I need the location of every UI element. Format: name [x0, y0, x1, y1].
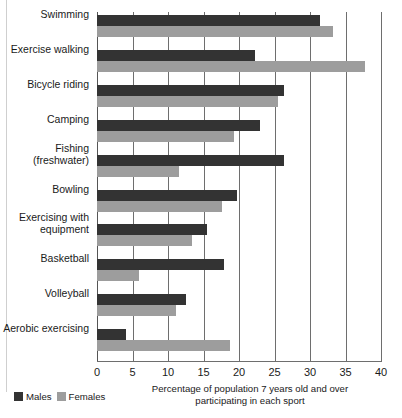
x-tick-label-20: 20 — [224, 366, 254, 378]
bar-group — [97, 155, 381, 177]
legend-label-females: Females — [69, 391, 106, 402]
bar-males — [97, 329, 126, 340]
x-tick-label-5: 5 — [118, 366, 148, 378]
legend-swatch-females-icon — [57, 392, 66, 401]
category-label: Exercising with equipment — [19, 211, 89, 235]
bar-females — [97, 305, 176, 316]
plot-area — [97, 12, 381, 361]
legend-item-females: Females — [57, 391, 106, 402]
bar-females — [97, 131, 234, 142]
bar-females — [97, 166, 179, 177]
bar-group — [97, 120, 381, 142]
category-label: Exercise walking — [11, 43, 89, 55]
bar-males — [97, 50, 255, 61]
bar-females — [97, 340, 230, 351]
category-label: Aerobic exercising — [3, 322, 89, 334]
category-label: Swimming — [41, 8, 89, 20]
bar-group — [97, 329, 381, 351]
x-tick-label-35: 35 — [331, 366, 361, 378]
bar-males — [97, 15, 320, 26]
x-axis-baseline — [97, 361, 382, 362]
bar-females — [97, 270, 139, 281]
bar-group — [97, 50, 381, 72]
category-axis: SwimmingExercise walkingBicycle ridingCa… — [0, 0, 97, 349]
bar-males — [97, 85, 284, 96]
bar-group — [97, 190, 381, 212]
bar-females — [97, 235, 192, 246]
bar-group — [97, 259, 381, 281]
x-axis-label: Percentage of population 7 years old and… — [110, 383, 390, 406]
legend-label-males: Males — [26, 391, 52, 402]
category-label: Bowling — [52, 183, 89, 195]
x-tick-label-30: 30 — [295, 366, 325, 378]
bar-group — [97, 224, 381, 246]
x-tick-label-25: 25 — [260, 366, 290, 378]
bar-males — [97, 294, 186, 305]
bar-females — [97, 96, 278, 107]
x-tick-label-0: 0 — [82, 366, 112, 378]
bar-males — [97, 190, 237, 201]
x-axis-label-line1: Percentage of population 7 years old and… — [110, 383, 390, 395]
category-label: Fishing (freshwater) — [33, 142, 89, 166]
bar-females — [97, 201, 222, 212]
legend-swatch-males-icon — [14, 392, 23, 401]
bar-males — [97, 155, 284, 166]
category-label: Basketball — [41, 252, 89, 264]
category-label: Bicycle riding — [27, 78, 89, 90]
bar-females — [97, 61, 365, 72]
bar-males — [97, 120, 260, 131]
category-label: Camping — [47, 113, 89, 125]
bar-group — [97, 85, 381, 107]
category-label: Volleyball — [45, 287, 89, 299]
bar-males — [97, 224, 207, 235]
bar-females — [97, 26, 333, 37]
x-tick-label-15: 15 — [189, 366, 219, 378]
bar-chart: SwimmingExercise walkingBicycle ridingCa… — [0, 0, 402, 418]
bar-males — [97, 259, 224, 270]
gridline-40 — [381, 12, 382, 361]
bar-group — [97, 294, 381, 316]
legend-item-males: Males — [14, 391, 52, 402]
x-tick-label-40: 40 — [366, 366, 396, 378]
legend: Males Females — [14, 391, 105, 402]
x-axis-label-line2: participating in each sport — [110, 395, 390, 407]
bar-group — [97, 15, 381, 37]
x-tick-label-10: 10 — [153, 366, 183, 378]
